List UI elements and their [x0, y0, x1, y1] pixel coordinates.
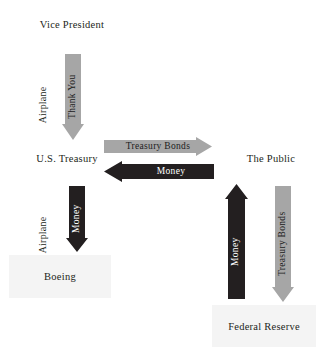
arrow-money-up-public: Money — [225, 184, 248, 299]
diagram-canvas: Vice President U.S. Treasury Boeing The … — [0, 0, 319, 351]
arrow-treasury-bonds-right: Treasury Bonds — [104, 137, 212, 156]
node-us-treasury-label: U.S. Treasury — [36, 153, 97, 164]
node-boeing: Boeing — [9, 255, 111, 298]
arrow-money-left: Money — [104, 161, 214, 182]
node-vice-president-label: Vice President — [40, 19, 104, 30]
arrow-money-left-shape — [104, 161, 214, 182]
node-vice-president: Vice President — [12, 13, 132, 35]
node-the-public: The Public — [228, 147, 314, 169]
arrow-treasury-bonds-down-shape — [272, 186, 294, 302]
label-airplane-top: Airplane — [37, 65, 51, 145]
arrow-treasury-bonds-right-shape — [104, 137, 212, 156]
arrow-thank-you: Thank You — [62, 54, 84, 140]
arrow-money-up-public-shape — [225, 184, 248, 299]
arrow-money-down-boeing: Money — [66, 186, 88, 252]
label-airplane-bottom-text: Airplane — [37, 217, 48, 254]
arrow-money-down-boeing-shape — [66, 186, 88, 252]
node-the-public-label: The Public — [247, 153, 295, 164]
arrow-thank-you-shape — [62, 54, 84, 140]
node-federal-reserve-label: Federal Reserve — [228, 321, 300, 332]
node-federal-reserve: Federal Reserve — [212, 305, 316, 347]
label-airplane-top-text: Airplane — [37, 87, 48, 124]
arrow-treasury-bonds-down: Treasury Bonds — [272, 186, 294, 302]
label-airplane-bottom: Airplane — [37, 195, 51, 275]
